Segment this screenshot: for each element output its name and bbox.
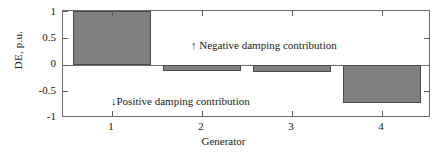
x-tick-label: 1 bbox=[96, 121, 126, 132]
y-tick-label: -1 bbox=[20, 111, 56, 122]
x-tick-mark bbox=[292, 111, 293, 116]
x-tick-label: 3 bbox=[276, 121, 306, 132]
y-tick-mark bbox=[63, 91, 68, 92]
x-tick-mark bbox=[382, 11, 383, 16]
x-tick-label: 4 bbox=[366, 121, 396, 132]
x-tick-mark bbox=[112, 11, 113, 16]
plot-area: ↑ Negative damping contribution ↓Positiv… bbox=[62, 10, 430, 117]
y-tick-mark bbox=[63, 11, 68, 12]
y-tick-label: 1 bbox=[20, 6, 56, 17]
bar-generator-1 bbox=[73, 11, 151, 65]
x-tick-label: 2 bbox=[186, 121, 216, 132]
x-tick-mark bbox=[292, 11, 293, 16]
x-axis-title: Generator bbox=[0, 135, 447, 147]
x-tick-mark bbox=[202, 111, 203, 116]
annotation-positive-damping: ↓Positive damping contribution bbox=[111, 95, 250, 107]
y-tick-mark bbox=[424, 38, 429, 39]
bar-generator-2 bbox=[163, 65, 241, 71]
bar-generator-4 bbox=[343, 65, 421, 104]
y-tick-mark bbox=[424, 91, 429, 92]
y-tick-label: -0.5 bbox=[20, 85, 56, 96]
bar-chart-figure: DE, p.u. 1 0.5 0 -0.5 -1 ↑ Negative damp bbox=[0, 0, 447, 155]
x-tick-mark bbox=[382, 111, 383, 116]
x-tick-mark bbox=[202, 11, 203, 16]
y-tick-mark bbox=[63, 65, 68, 66]
x-tick-mark bbox=[112, 111, 113, 116]
annotation-negative-damping: ↑ Negative damping contribution bbox=[191, 39, 337, 51]
y-tick-label: 0.5 bbox=[20, 32, 56, 43]
y-axis-title: DE, p.u. bbox=[12, 10, 24, 90]
y-tick-mark bbox=[63, 38, 68, 39]
y-tick-label: 0 bbox=[20, 58, 56, 69]
bar-generator-3 bbox=[253, 65, 331, 72]
